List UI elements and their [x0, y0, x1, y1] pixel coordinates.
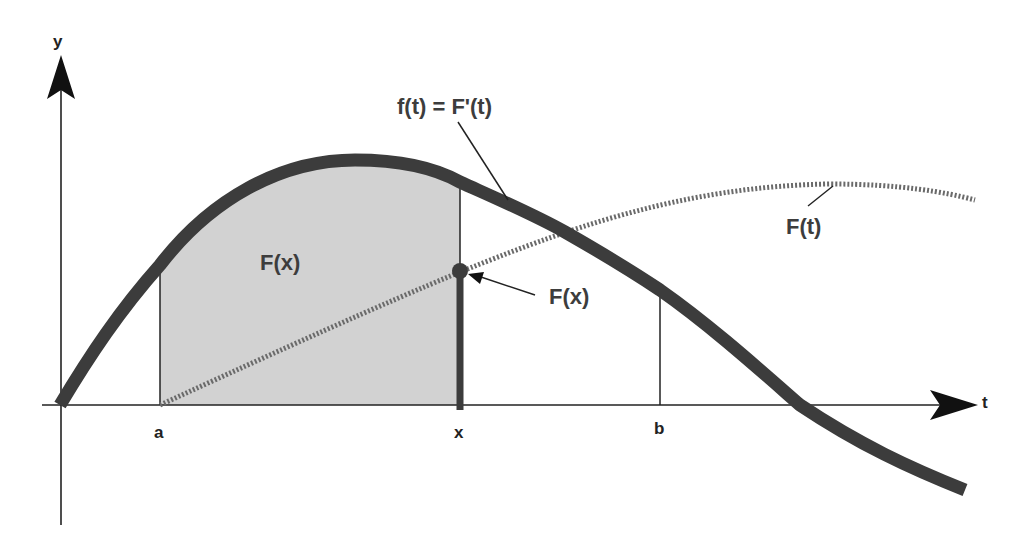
F-curve-leader-line [808, 186, 833, 206]
tick-label-x: x [454, 424, 463, 441]
x-axis-label: t [982, 394, 988, 411]
F-of-x-point [452, 263, 468, 279]
F-of-x-arrow-icon [468, 272, 484, 284]
y-axis-label: y [53, 33, 62, 50]
shaded-area-region [160, 160, 460, 405]
F-of-x-point-label: F(x) [549, 286, 589, 308]
f-curve-label: f(t) = F'(t) [397, 96, 492, 118]
F-curve-label: F(t) [786, 216, 821, 238]
tick-label-b: b [654, 420, 664, 437]
shaded-area-label: F(x) [260, 252, 300, 274]
tick-label-a: a [154, 424, 163, 441]
F-of-x-leader-line [478, 276, 535, 295]
ftc-diagram [0, 0, 1024, 544]
